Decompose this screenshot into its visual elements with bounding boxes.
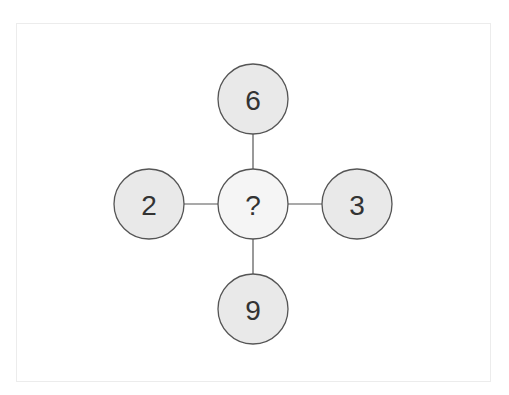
node-center-label: ? xyxy=(245,190,261,221)
node-left: 2 xyxy=(114,169,184,239)
node-top-label: 6 xyxy=(245,85,261,116)
node-right-label: 3 xyxy=(349,190,365,221)
node-bottom: 9 xyxy=(218,274,288,344)
node-top: 6 xyxy=(218,64,288,134)
node-left-label: 2 xyxy=(141,190,157,221)
node-bottom-label: 9 xyxy=(245,295,261,326)
number-puzzle-diagram: 6 2 ? 3 9 xyxy=(0,0,509,395)
node-center: ? xyxy=(218,169,288,239)
node-right: 3 xyxy=(322,169,392,239)
